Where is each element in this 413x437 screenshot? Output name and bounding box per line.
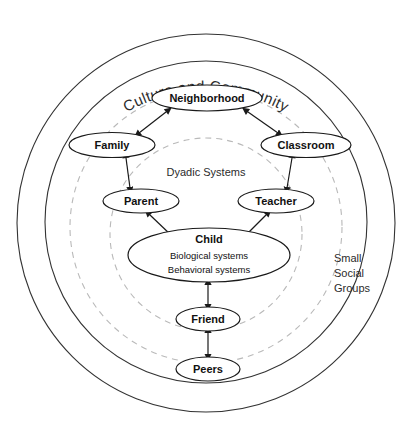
node-teacher[interactable]: Teacher xyxy=(238,189,314,213)
connector-classroom-teacher xyxy=(287,158,292,188)
node-child[interactable]: Child Biological systems Behavioral syst… xyxy=(128,228,290,282)
diagram-canvas: Culture and Community Small Social Group… xyxy=(0,0,413,437)
node-peers[interactable]: Peers xyxy=(176,357,240,381)
label-small-social-groups-line1: Small xyxy=(334,252,362,264)
node-family[interactable]: Family xyxy=(69,133,155,158)
node-friend-label: Friend xyxy=(191,313,225,325)
node-teacher-label: Teacher xyxy=(255,195,297,207)
node-child-sublabel-biological: Biological systems xyxy=(170,250,248,261)
node-peers-label: Peers xyxy=(193,363,223,375)
label-dyadic-systems: Dyadic Systems xyxy=(167,166,246,178)
node-child-label: Child xyxy=(195,233,223,245)
connector-family-parent xyxy=(126,158,130,188)
node-child-sublabel-behavioral: Behavioral systems xyxy=(168,264,251,275)
node-classroom[interactable]: Classroom xyxy=(261,133,351,158)
node-parent[interactable]: Parent xyxy=(103,189,179,213)
label-small-social-groups-line2: Social xyxy=(334,267,364,279)
label-small-social-groups-line3: Groups xyxy=(334,282,371,294)
node-parent-label: Parent xyxy=(124,195,159,207)
connector-neighborhood-classroom xyxy=(248,112,278,133)
node-family-label: Family xyxy=(95,139,131,151)
node-neighborhood[interactable]: Neighborhood xyxy=(152,85,262,111)
node-classroom-label: Classroom xyxy=(278,139,335,151)
node-neighborhood-label: Neighborhood xyxy=(169,92,244,104)
ecological-systems-diagram: Culture and Community Small Social Group… xyxy=(0,0,413,437)
node-friend[interactable]: Friend xyxy=(176,307,240,331)
connector-neighborhood-family xyxy=(139,112,166,133)
